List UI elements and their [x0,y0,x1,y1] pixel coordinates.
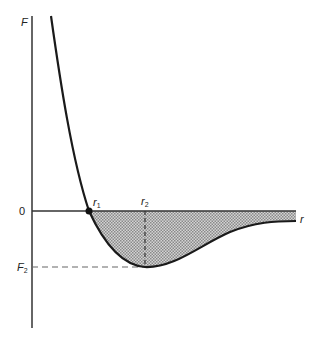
r2-label: r2 [141,195,149,208]
shaded-attractive-region [89,211,296,267]
f2-label: F2 [17,261,28,274]
force-diagram: F 0 r r1 r2 F2 [0,0,320,346]
f-axis-label: F [21,16,29,28]
r-axis-label: r [300,213,305,225]
zero-label: 0 [19,205,25,217]
r1-label: r1 [93,196,101,209]
r1-point [86,208,93,215]
